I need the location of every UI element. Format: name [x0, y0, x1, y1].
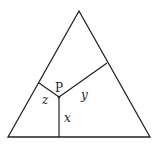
point-p-dot — [58, 96, 61, 99]
point-p-label: P — [55, 81, 63, 95]
label-x: x — [64, 111, 71, 125]
label-y: y — [80, 88, 88, 102]
triangle-diagram: P z y x — [0, 0, 158, 148]
equilateral-triangle — [8, 11, 150, 137]
label-z: z — [41, 93, 49, 107]
